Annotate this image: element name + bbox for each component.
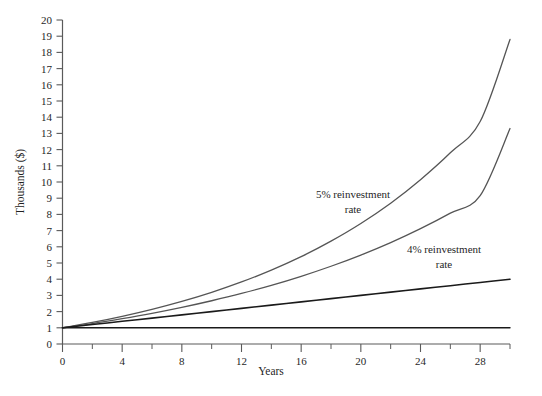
y-tick-label-20: 20 [41,14,53,26]
y-tick-label-3: 3 [47,289,53,301]
y-tick-label-18: 18 [41,46,53,58]
x-tick-label-4: 4 [119,355,125,367]
x-tick-label-24: 24 [415,355,427,367]
y-tick-label-0: 0 [47,338,53,350]
y-tick-label-17: 17 [41,63,53,75]
y-tick-label-19: 19 [41,30,53,42]
y-tick-label-6: 6 [47,241,53,253]
y-tick-label-8: 8 [47,208,53,220]
annotation-4pct-line1: 4% reinvestment [407,243,481,255]
y-tick-label-9: 9 [47,192,53,204]
y-tick-label-5: 5 [47,257,53,269]
x-tick-label-28: 28 [475,355,487,367]
annotation-5pct-line2: rate [345,203,362,215]
y-tick-label-13: 13 [41,127,53,139]
annotation-5pct-line1: 5% reinvestment [316,188,390,200]
y-tick-label-15: 15 [41,95,53,107]
y-tick-label-1: 1 [47,322,53,334]
growth-line-chart: 01234567891011121314151617181920 0481216… [0,0,542,396]
chart-background [0,0,542,396]
y-axis-ticks [57,20,63,344]
x-tick-label-20: 20 [355,355,367,367]
y-tick-label-10: 10 [41,176,53,188]
x-tick-label-8: 8 [179,355,185,367]
chart-container: 01234567891011121314151617181920 0481216… [0,0,542,396]
y-tick-label-7: 7 [47,225,53,237]
y-tick-label-16: 16 [41,79,53,91]
x-tick-label-12: 12 [236,355,247,367]
y-tick-label-12: 12 [41,144,52,156]
y-tick-label-14: 14 [41,111,53,123]
y-tick-label-4: 4 [47,273,53,285]
x-tick-label-16: 16 [296,355,308,367]
x-axis-title: Years [258,365,284,377]
y-axis-title: Thousands ($) [14,149,27,215]
y-tick-label-11: 11 [41,160,52,172]
y-tick-label-2: 2 [47,306,53,318]
x-tick-label-0: 0 [60,355,66,367]
annotation-4pct-line2: rate [436,258,453,270]
